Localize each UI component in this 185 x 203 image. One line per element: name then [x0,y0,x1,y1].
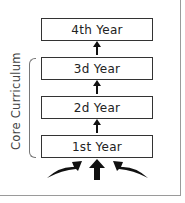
arrow-up-icon [93,80,101,94]
arrows-layer [0,0,185,203]
input-arrow-right-curved-icon [113,161,148,178]
arrow-up-icon [93,119,101,133]
input-arrow-left-curved-icon [47,161,82,178]
arrow-up-icon [93,41,101,55]
input-arrow-center-icon [89,159,105,180]
